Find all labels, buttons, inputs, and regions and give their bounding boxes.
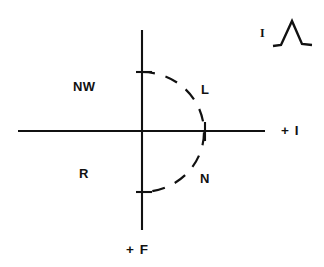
peak-waveform-inset-label: I [260,27,265,39]
diagram-canvas: NW L R N + I + F I [0,0,324,267]
vertical-axis-label: + F [126,243,149,257]
region-label-n: N [200,172,210,185]
region-label-l: L [201,83,209,96]
horizontal-axis-label: + I [281,124,299,138]
region-label-nw: NW [73,80,95,93]
region-label-r: R [79,167,89,180]
peak-waveform-icon [273,21,312,46]
diagram-vector-layer [0,0,324,267]
